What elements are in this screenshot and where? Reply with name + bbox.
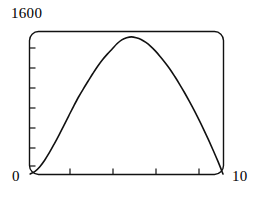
y-axis-ticks: [30, 48, 36, 166]
plot-area: [0, 0, 259, 201]
plot-frame: [30, 32, 224, 175]
x-axis-ticks: [70, 169, 199, 175]
y-axis-min-label: 0: [12, 169, 20, 184]
chart-figure: 1600 0 10: [0, 0, 259, 201]
y-axis-max-label: 1600: [11, 6, 42, 21]
x-axis-max-label: 10: [232, 169, 248, 184]
data-curve: [30, 37, 223, 174]
